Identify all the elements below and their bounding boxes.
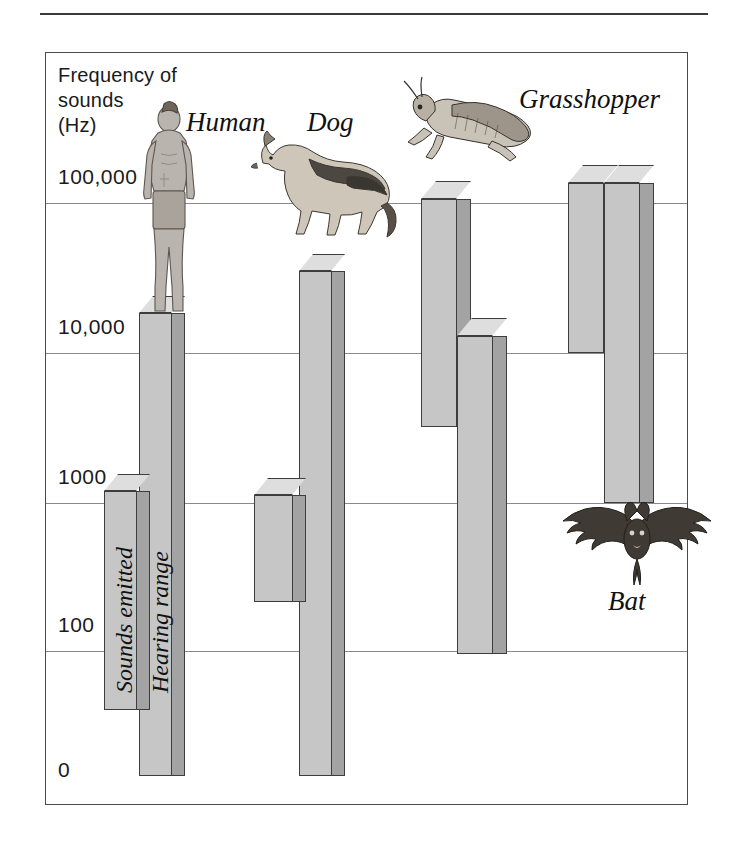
- y-tick-100000: 100,000: [58, 165, 137, 189]
- y-tick-100: 100: [58, 613, 95, 637]
- bar-top-face: [299, 254, 345, 271]
- bar-dog-sounds-emitted: [254, 495, 306, 602]
- bar-front-face: [568, 183, 604, 353]
- bat-illustration: [563, 501, 711, 589]
- bar-side-face: [331, 271, 345, 776]
- bar-top-face: [139, 296, 185, 313]
- species-label-human: Human: [186, 107, 266, 138]
- chart-plot-area: Frequency of sounds (Hz) 100,000 10,000 …: [45, 52, 688, 805]
- bar-side-face: [292, 495, 306, 602]
- bar-front-face: [604, 183, 640, 503]
- y-tick-0: 0: [58, 758, 70, 782]
- header-divider: [40, 13, 708, 15]
- y-tick-1000: 1000: [58, 465, 107, 489]
- y-tick-10000: 10,000: [58, 315, 125, 339]
- y-axis-title: Frequency of sounds (Hz): [58, 63, 177, 138]
- bar-bat-hearing-range: [604, 183, 654, 503]
- bar-side-face: [639, 183, 654, 503]
- species-label-grasshopper: Grasshopper: [519, 84, 660, 115]
- grasshopper-illustration: [396, 75, 536, 171]
- bar-side-face: [136, 491, 150, 710]
- species-label-dog: Dog: [307, 107, 354, 138]
- bar-label-hearing-range: Hearing range: [147, 551, 174, 693]
- bar-side-face: [492, 336, 507, 654]
- bar-label-sounds-emitted: Sounds emitted: [111, 547, 138, 693]
- species-label-bat: Bat: [608, 586, 646, 617]
- bar-side-face: [171, 313, 185, 776]
- dog-illustration: [251, 129, 399, 239]
- bar-front-face: [254, 495, 293, 602]
- bar-top-face: [421, 181, 471, 199]
- bar-front-face: [457, 336, 493, 654]
- bar-grasshopper-hearing-range: [457, 336, 507, 654]
- bar-front-face: [421, 199, 457, 427]
